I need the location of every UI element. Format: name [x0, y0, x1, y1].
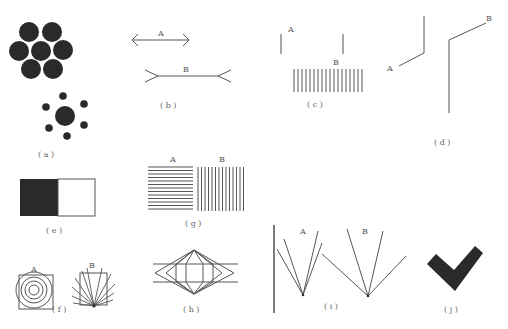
panel-h: ( h ) — [153, 250, 238, 314]
label-g-B: B — [219, 155, 225, 164]
radiating-lines — [72, 268, 115, 306]
label-d-A: A — [386, 64, 393, 73]
panel-a: ( a ) — [9, 22, 88, 159]
vertical-grating — [198, 167, 244, 211]
panel-d: A B ( d ) — [386, 14, 492, 147]
label-i-B: B — [362, 227, 368, 236]
panel-c: A B ( c ) — [281, 25, 362, 109]
small-circles-cluster — [42, 92, 88, 140]
label-g-A: A — [169, 155, 176, 164]
label-f-B: B — [89, 261, 95, 270]
label-c-B: B — [333, 58, 339, 67]
large-circles-cluster — [9, 22, 73, 79]
panel-b: A B ( b ) — [132, 29, 231, 110]
caption-j: ( j ) — [444, 305, 458, 314]
caption-b: ( b ) — [160, 101, 176, 110]
illusions-figure: ( a ) A B ( b ) A B — [0, 0, 508, 329]
caption-h: ( h ) — [183, 305, 199, 314]
fan-lines — [155, 250, 234, 294]
check-mark-shape — [427, 246, 483, 291]
grating-lines — [294, 69, 362, 92]
label-b-B: B — [183, 65, 189, 74]
label-b-A: A — [157, 29, 164, 38]
caption-d: ( d ) — [434, 138, 450, 147]
caption-f: ( f ) — [52, 305, 66, 314]
label-d-B: B — [486, 14, 492, 23]
panel-e: ( e ) — [20, 179, 95, 235]
caption-c: ( c ) — [307, 100, 323, 109]
caption-i: ( i ) — [324, 302, 338, 311]
panel-j: ( j ) — [427, 246, 483, 314]
label-i-A: A — [299, 227, 306, 236]
horizontal-grating — [148, 167, 193, 209]
panel-g: A B — [148, 155, 244, 228]
panel-f: A B ( f ) — [16, 261, 115, 314]
panel-i: A B ( i ) — [274, 225, 406, 313]
caption-g: ( g ) — [185, 219, 201, 228]
caption-e: ( e ) — [46, 226, 62, 235]
label-c-A: A — [287, 25, 294, 34]
caption-a: ( a ) — [38, 150, 54, 159]
